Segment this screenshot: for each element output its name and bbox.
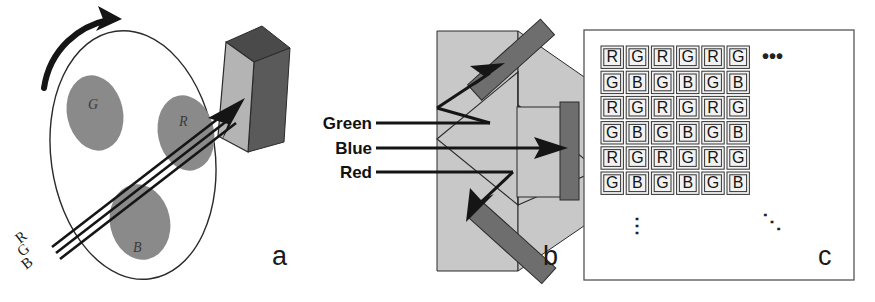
bayer-cell-label: G — [707, 74, 719, 91]
bayer-cell: G — [702, 122, 724, 144]
bayer-cell: B — [626, 71, 648, 93]
bayer-cell-label: R — [606, 99, 618, 116]
bayer-cell-label: B — [733, 124, 744, 141]
vertical-ellipsis: ⋮ — [627, 214, 647, 236]
panel-a-letter: a — [272, 241, 288, 271]
bayer-cell-label: G — [732, 48, 744, 65]
bayer-cell: R — [702, 147, 724, 169]
figure-canvas: G R B — [0, 0, 875, 302]
bayer-cell: B — [626, 172, 648, 194]
bayer-cell-label: R — [606, 48, 618, 65]
bayer-cell: G — [626, 96, 648, 118]
bayer-cell: G — [677, 147, 699, 169]
bayer-cell: G — [651, 71, 673, 93]
bayer-cell-label: R — [707, 48, 719, 65]
bayer-cell: R — [651, 46, 673, 68]
bayer-cell: G — [601, 122, 623, 144]
bayer-cell: G — [677, 46, 699, 68]
bayer-cell-label: G — [631, 99, 643, 116]
bayer-cell: B — [727, 122, 749, 144]
bayer-cell: G — [601, 172, 623, 194]
bayer-cell-label: G — [707, 124, 719, 141]
bayer-cell-label: R — [657, 99, 669, 116]
bayer-cell-label: R — [657, 149, 669, 166]
panel-c-letter: c — [818, 241, 832, 271]
bayer-cell: R — [702, 96, 724, 118]
panel-a-group: G R B — [12, 6, 290, 290]
bayer-cell: R — [601, 147, 623, 169]
red-beam-label: Red — [340, 163, 372, 182]
bayer-cell: R — [601, 46, 623, 68]
bayer-cell-label: G — [606, 174, 618, 191]
bayer-cell-label: B — [733, 174, 744, 191]
three-chip-vs-bayer-figure: G R B — [0, 0, 875, 302]
panel-b-letter: b — [543, 241, 558, 271]
bayer-cell-label: B — [682, 174, 693, 191]
bayer-cell: G — [651, 122, 673, 144]
bayer-cell: B — [727, 71, 749, 93]
bayer-cell-label: G — [682, 99, 694, 116]
bayer-cell: G — [727, 46, 749, 68]
panel-b-group: Green Blue Red b — [323, 19, 600, 284]
bayer-cell-label: R — [707, 99, 719, 116]
bayer-cell-label: G — [631, 149, 643, 166]
bayer-cell-label: R — [657, 48, 669, 65]
bayer-cell: G — [702, 172, 724, 194]
bayer-cell-label: G — [707, 174, 719, 191]
bayer-cell-label: B — [682, 74, 693, 91]
bayer-cell-label: G — [606, 74, 618, 91]
bayer-cell-label: G — [656, 74, 668, 91]
bayer-cell: B — [677, 172, 699, 194]
bayer-cell-label: G — [682, 48, 694, 65]
bayer-cell-label: R — [606, 149, 618, 166]
bayer-cell: R — [702, 46, 724, 68]
bayer-cell: G — [702, 71, 724, 93]
bayer-cell: G — [727, 147, 749, 169]
bayer-cell: G — [626, 46, 648, 68]
projection-plate — [218, 26, 290, 152]
green-beam-label: Green — [323, 114, 372, 133]
plate-face — [218, 42, 254, 152]
bayer-cell-label: B — [682, 124, 693, 141]
bayer-cell-label: B — [733, 74, 744, 91]
bayer-cell-label: G — [631, 48, 643, 65]
bayer-cell: R — [651, 147, 673, 169]
bayer-cell-label: B — [632, 174, 643, 191]
bayer-cell-label: G — [732, 149, 744, 166]
bayer-cell-label: G — [656, 174, 668, 191]
bayer-cell-label: R — [707, 149, 719, 166]
bayer-cell-label: B — [632, 124, 643, 141]
bayer-cell: R — [601, 96, 623, 118]
green-filter-label: G — [88, 97, 98, 112]
blue-filter-label: B — [133, 240, 142, 255]
blue-beam-label: Blue — [335, 139, 372, 158]
red-filter-label: R — [178, 114, 188, 129]
bayer-cell: R — [651, 96, 673, 118]
diagonal-ellipsis: ⋱ — [762, 210, 782, 232]
bayer-cell-label: G — [606, 124, 618, 141]
bayer-cell: G — [727, 96, 749, 118]
bayer-cell: B — [677, 122, 699, 144]
bayer-cell-label: B — [632, 74, 643, 91]
bayer-cell: G — [601, 71, 623, 93]
blue-sensor-bar — [560, 102, 579, 200]
bayer-cell: B — [677, 71, 699, 93]
bayer-cell: B — [727, 172, 749, 194]
bayer-cell: B — [626, 122, 648, 144]
horizontal-ellipsis: ••• — [762, 45, 783, 67]
bayer-cell: G — [651, 172, 673, 194]
bayer-cell-label: G — [656, 124, 668, 141]
bayer-cell: G — [677, 96, 699, 118]
bayer-cell-label: G — [682, 149, 694, 166]
bayer-cell-label: G — [732, 99, 744, 116]
bayer-cell: G — [626, 147, 648, 169]
panel-c-group: RGRGRGGBGBGBRGRGRGGBGBGBRGRGRGGBGBGB •••… — [584, 30, 854, 280]
